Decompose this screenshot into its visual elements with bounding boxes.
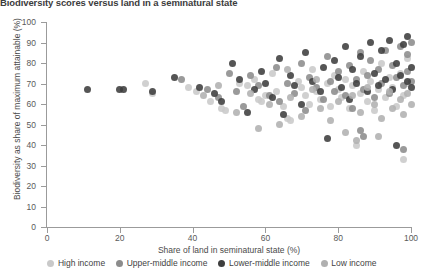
y-axis-tick xyxy=(41,227,46,228)
y-axis-tick xyxy=(41,207,46,208)
scatter-point xyxy=(320,96,327,103)
scatter-plot-area xyxy=(47,22,411,227)
y-axis-tick xyxy=(41,63,46,64)
scatter-point xyxy=(393,60,400,67)
scatter-point xyxy=(400,146,407,153)
scatter-point xyxy=(360,133,367,140)
legend-item-0[interactable]: High income xyxy=(47,258,105,268)
y-axis-tick xyxy=(41,125,46,126)
scatter-point xyxy=(375,133,382,140)
legend-item-1[interactable]: Upper-middle income xyxy=(116,258,207,268)
scatter-point xyxy=(389,105,396,112)
scatter-point xyxy=(335,74,342,81)
scatter-point xyxy=(171,74,178,81)
scatter-point xyxy=(247,90,254,97)
scatter-point xyxy=(222,107,229,114)
y-axis-tick xyxy=(41,84,46,85)
legend-swatch-icon xyxy=(116,260,123,267)
scatter-point xyxy=(357,109,364,116)
scatter-point xyxy=(364,98,371,105)
x-axis-tick-label: 0 xyxy=(32,234,62,243)
legend-swatch-icon xyxy=(218,260,225,267)
y-axis-tick xyxy=(41,22,46,23)
scatter-point xyxy=(364,84,371,91)
scatter-point xyxy=(375,82,382,89)
scatter-point xyxy=(371,101,378,108)
scatter-point xyxy=(317,105,324,112)
scatter-point xyxy=(400,41,407,48)
scatter-point xyxy=(327,117,334,124)
scatter-point xyxy=(353,80,360,87)
scatter-point xyxy=(357,53,364,60)
scatter-point xyxy=(327,78,334,85)
scatter-point xyxy=(349,92,356,99)
scatter-point xyxy=(266,101,273,108)
scatter-point xyxy=(233,109,240,116)
scatter-point xyxy=(400,111,407,118)
scatter-point xyxy=(386,37,393,44)
x-axis-label: Share of land in seminatural state (%) xyxy=(46,245,412,255)
legend-item-2[interactable]: Lower-middle income xyxy=(218,258,309,268)
scatter-point xyxy=(335,98,342,105)
legend-item-label: Low income xyxy=(331,258,376,268)
scatter-point xyxy=(408,39,415,46)
scatter-point xyxy=(196,84,203,91)
scatter-point xyxy=(287,72,294,79)
legend-item-3[interactable]: Low income xyxy=(321,258,377,268)
scatter-point xyxy=(367,57,374,64)
scatter-point xyxy=(338,84,345,91)
scatter-point xyxy=(309,66,316,73)
y-axis-tick xyxy=(41,104,46,105)
scatter-point xyxy=(298,84,305,91)
legend-swatch-icon xyxy=(321,260,328,267)
x-axis-tick-label: 80 xyxy=(323,234,353,243)
scatter-point xyxy=(215,82,222,89)
scatter-point xyxy=(207,98,214,105)
y-axis-tick xyxy=(41,145,46,146)
scatter-point xyxy=(324,135,331,142)
x-axis-line xyxy=(46,227,412,228)
scatter-point xyxy=(284,66,291,73)
scatter-point xyxy=(371,70,378,77)
y-axis-tick xyxy=(41,43,46,44)
scatter-point xyxy=(378,115,385,122)
scatter-point xyxy=(397,72,404,79)
x-axis-tick-label: 60 xyxy=(250,234,280,243)
y-axis-tick-label: 0 xyxy=(8,223,36,232)
scatter-point xyxy=(331,88,338,95)
legend-swatch-icon xyxy=(47,260,54,267)
scatter-point xyxy=(393,142,400,149)
scatter-point xyxy=(244,109,251,116)
scatter-point xyxy=(178,76,185,83)
x-axis-tick-label: 20 xyxy=(105,234,135,243)
legend-item-label: Lower-middle income xyxy=(229,258,310,268)
scatter-point xyxy=(404,90,411,97)
scatter-point xyxy=(262,80,269,87)
scatter-point xyxy=(233,88,240,95)
scatter-point xyxy=(324,53,331,60)
scatter-point xyxy=(291,82,298,89)
scatter-point xyxy=(397,96,404,103)
scatter-point xyxy=(287,94,294,101)
scatter-point xyxy=(298,60,305,67)
scatter-point xyxy=(349,66,356,73)
x-axis-tick-label: 40 xyxy=(178,234,208,243)
scatter-point xyxy=(280,111,287,118)
scatter-point xyxy=(218,98,225,105)
scatter-point xyxy=(349,105,356,112)
scatter-point xyxy=(313,76,320,83)
scatter-point xyxy=(342,43,349,50)
scatter-point xyxy=(284,80,291,87)
chart-title: Biodiversity scores versus land in a sem… xyxy=(0,0,237,8)
scatter-point xyxy=(302,49,309,56)
scatter-point xyxy=(287,117,294,124)
scatter-point xyxy=(367,39,374,46)
scatter-point xyxy=(298,113,305,120)
scatter-point xyxy=(200,92,207,99)
scatter-point xyxy=(320,64,327,71)
y-axis-tick xyxy=(41,166,46,167)
scatter-point xyxy=(327,103,334,110)
scatter-point xyxy=(382,76,389,83)
scatter-point xyxy=(258,68,265,75)
legend-item-label: Upper-middle income xyxy=(127,258,208,268)
